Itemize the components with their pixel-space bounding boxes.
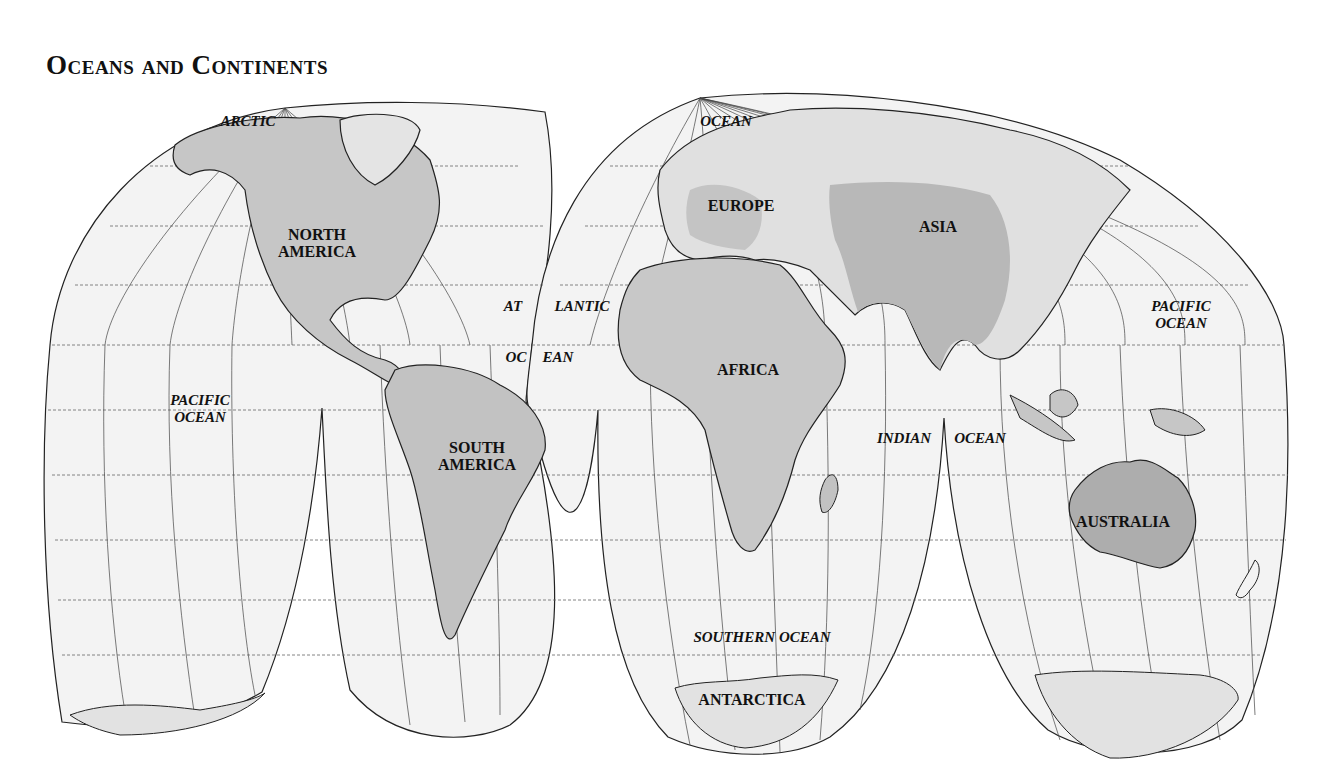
label-africa: AFRICA — [717, 361, 779, 378]
label-north-america: NORTHAMERICA — [278, 226, 356, 260]
label-arctic-ocean-part1: ARCTIC — [220, 113, 275, 130]
label-atlantic-ocean-part1b: LANTIC — [554, 298, 609, 315]
label-atlantic-ocean-part1a: AT — [504, 298, 522, 315]
label-atlantic-ocean-part2b: EAN — [543, 349, 574, 366]
world-map — [0, 0, 1320, 779]
label-pacific-ocean-east: PACIFICOCEAN — [1151, 298, 1211, 332]
label-indian-ocean-part2: OCEAN — [954, 430, 1006, 447]
label-southern-ocean: SOUTHERN OCEAN — [693, 629, 830, 646]
label-atlantic-ocean-part2a: OC — [506, 349, 527, 366]
antarctica-east-shape — [1035, 671, 1238, 758]
label-europe: EUROPE — [708, 197, 775, 214]
label-asia: ASIA — [919, 218, 957, 235]
label-antarctica: ANTARCTICA — [698, 691, 805, 708]
label-arctic-ocean-part2: OCEAN — [700, 113, 752, 130]
label-indian-ocean-part1: INDIAN — [877, 430, 931, 447]
label-australia: AUSTRALIA — [1076, 513, 1170, 530]
label-south-america: SOUTHAMERICA — [438, 439, 516, 473]
label-pacific-ocean-west: PACIFICOCEAN — [170, 392, 230, 426]
